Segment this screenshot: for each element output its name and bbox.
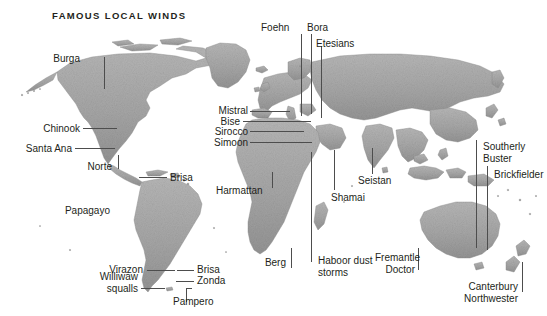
wind-label-shamai: Shamai — [331, 192, 365, 204]
wind-label-brisa-north: Brisa — [170, 172, 193, 184]
leader-line-zonda — [176, 281, 194, 282]
leader-line-southerly — [476, 140, 477, 248]
wind-label-chinook: Chinook — [14, 123, 80, 135]
leader-line-virazon — [147, 270, 175, 271]
wind-label-haboor-line1: Haboor dust — [318, 255, 372, 267]
wind-label-canterbury-line1: Canterbury — [446, 281, 518, 293]
wind-label-burga: Burga — [24, 53, 80, 65]
wind-label-southerly-line2: Buster — [483, 153, 512, 165]
world-map-artwork — [0, 0, 547, 316]
leader-line-seistan — [372, 148, 373, 174]
wind-label-santa-ana: Santa Ana — [2, 143, 72, 155]
leader-line-haboor — [311, 152, 312, 262]
wind-label-sirocco: Sirocco — [190, 126, 248, 138]
leader-line-santa-ana — [75, 148, 115, 149]
leader-line-sirocco — [250, 131, 304, 132]
wind-label-williwaw-line2: squalls — [83, 283, 138, 295]
leader-line-bise — [243, 121, 311, 122]
wind-label-simoon: Simoon — [190, 137, 248, 149]
wind-label-berg: Berg — [246, 257, 286, 269]
leader-line-williwaw — [141, 288, 165, 289]
leader-line-simoon — [250, 142, 312, 143]
leader-line-shamai — [334, 150, 335, 190]
leader-line-norte — [118, 155, 119, 169]
famous-local-winds-map: FAMOUS LOCAL WINDS Burga Chinook Santa A… — [0, 0, 547, 316]
wind-label-zonda: Zonda — [197, 275, 225, 287]
wind-label-brisa-south: Brisa — [197, 264, 220, 276]
wind-label-norte: Norte — [60, 161, 112, 173]
wind-label-fremantle-line1: Fremantle — [375, 252, 415, 264]
wind-label-haboor-line2: storms — [318, 267, 348, 279]
wind-label-etesians: Etesians — [316, 38, 354, 50]
wind-label-canterbury-line2: Northwester — [440, 293, 518, 305]
leader-line-brisa-south — [177, 270, 194, 271]
leader-line-canterbury — [522, 262, 523, 292]
wind-label-brickfielder: Brickfielder — [494, 169, 543, 181]
leader-line-burga — [104, 57, 105, 89]
leader-line-harmattan — [272, 172, 273, 188]
wind-label-bora: Bora — [307, 22, 328, 34]
wind-label-harmattan: Harmattan — [216, 185, 263, 197]
wind-label-pampero: Pampero — [173, 296, 214, 308]
leader-line-mistral — [250, 111, 290, 112]
leader-line-bora — [311, 34, 312, 114]
wind-label-southerly-line1: Southerly — [483, 141, 525, 153]
leader-line-chinook — [83, 128, 117, 129]
wind-label-papagayo: Papagayo — [32, 205, 110, 217]
wind-label-seistan: Seistan — [358, 175, 391, 187]
figure-title: FAMOUS LOCAL WINDS — [52, 10, 186, 21]
leader-line-brisa-north — [139, 177, 167, 178]
leader-line-etesians — [321, 46, 322, 118]
wind-label-foehn: Foehn — [261, 22, 289, 34]
wind-label-fremantle-line2: Doctor — [375, 264, 415, 276]
leader-line-foehn — [301, 34, 302, 116]
leader-line-berg — [291, 248, 292, 268]
wind-label-williwaw-line1: Williwaw — [83, 271, 138, 283]
wind-label-mistral: Mistral — [190, 105, 248, 117]
leader-line-brickfielder — [487, 166, 488, 250]
